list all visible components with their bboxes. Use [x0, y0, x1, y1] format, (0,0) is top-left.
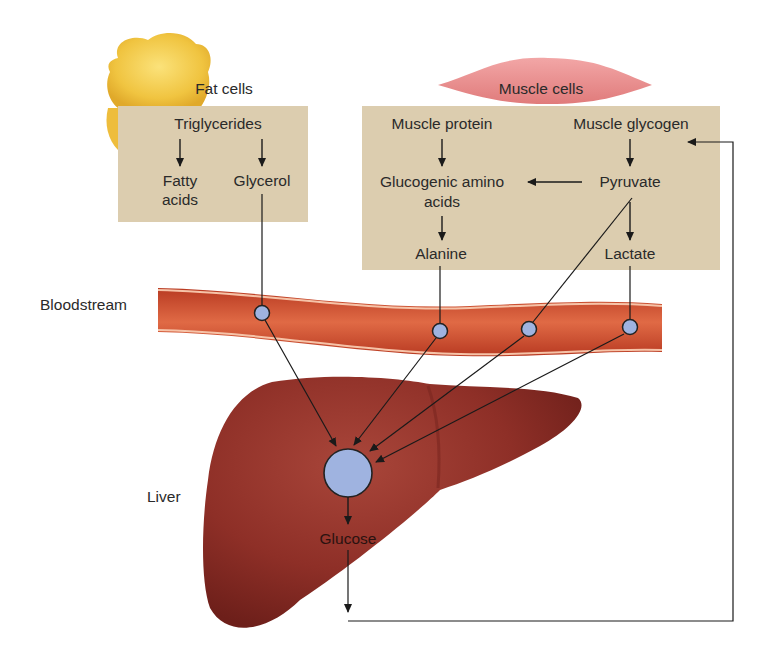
- lactate-blood-node: [623, 320, 638, 335]
- fat-cells-title: Fat cells: [195, 80, 253, 98]
- alanine-label: Alanine: [415, 245, 467, 263]
- muscle-glycogen-label: Muscle glycogen: [573, 115, 688, 133]
- glycerol-label: Glycerol: [234, 172, 291, 190]
- muscle-protein-label: Muscle protein: [392, 115, 493, 133]
- glucogenic-amino-acids-label-line2: acids: [424, 193, 460, 211]
- fatty-acids-label-line2: acids: [162, 191, 198, 209]
- muscle-cells-title: Muscle cells: [499, 80, 583, 98]
- pyruvate-label: Pyruvate: [599, 173, 660, 191]
- alanine-blood-node: [433, 324, 448, 339]
- diagram-graphics: [0, 0, 770, 663]
- pyruvate-blood-node: [522, 322, 537, 337]
- glucogenic-amino-acids-label-line1: Glucogenic amino: [380, 173, 504, 191]
- liver-gluconeogenesis-node: [324, 449, 372, 497]
- lactate-label: Lactate: [605, 245, 656, 263]
- fatty-acids-label-line1: Fatty: [163, 172, 197, 190]
- bloodstream-vessel: [158, 288, 662, 356]
- liver-illustration: [203, 377, 582, 628]
- glucose-label: Glucose: [320, 530, 377, 548]
- diagram-canvas: Fat cells Triglycerides Fatty acids Glyc…: [0, 0, 770, 663]
- triglycerides-label: Triglycerides: [174, 115, 261, 133]
- glycerol-blood-node: [255, 306, 270, 321]
- bloodstream-label: Bloodstream: [40, 296, 127, 314]
- liver-label: Liver: [147, 488, 181, 506]
